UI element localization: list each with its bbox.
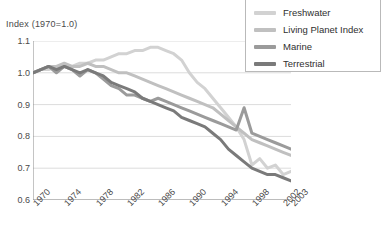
series-line-living-planet-index [33,63,291,155]
legend-color-swatch [254,11,276,15]
chart-container: Index (1970=1.0) 1.11.00.90.80.70.6 1970… [0,0,381,248]
legend-item[interactable]: Living Planet Index [254,22,380,38]
legend-color-swatch [254,62,276,66]
y-tick-label: 1.1 [17,36,30,46]
legend-color-swatch [254,28,276,32]
y-axis-tick-labels: 1.11.00.90.80.70.6 [0,41,30,200]
chart-legend: FreshwaterLiving Planet IndexMarineTerre… [245,0,381,72]
y-tick-label: 0.7 [17,163,30,173]
legend-item[interactable]: Terrestrial [254,56,380,72]
legend-color-swatch [254,45,276,49]
legend-item[interactable]: Freshwater [254,5,380,21]
x-axis-tick-labels: 1970197419781982198619901994199820022003 [33,201,333,247]
legend-item[interactable]: Marine [254,39,380,55]
y-tick-label: 0.9 [17,100,30,110]
legend-label: Marine [283,42,312,52]
y-tick-label: 1.0 [17,68,30,78]
y-axis-title: Index (1970=1.0) [6,19,78,29]
legend-label: Living Planet Index [283,25,363,35]
legend-label: Terrestrial [283,59,325,69]
y-tick-label: 0.6 [17,195,30,205]
legend-label: Freshwater [283,8,331,18]
y-tick-label: 0.8 [17,131,30,141]
